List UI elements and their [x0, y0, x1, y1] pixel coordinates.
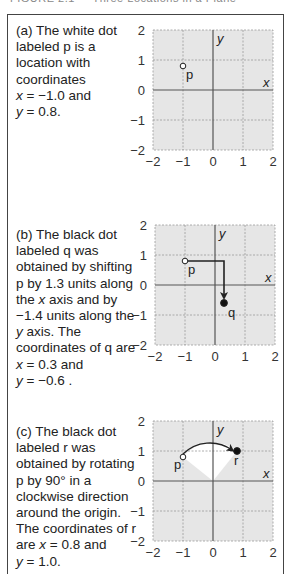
point-p — [180, 63, 186, 69]
plot-b: yx210−1−2−2−1012pq — [131, 217, 291, 367]
svg-text:p: p — [174, 457, 181, 472]
point-p — [182, 258, 188, 264]
svg-text:q: q — [228, 305, 235, 320]
svg-text:0: 0 — [138, 474, 145, 489]
caption-line: coordinates of q are — [16, 340, 146, 356]
caption-line: obtained by shifting — [16, 259, 146, 275]
svg-text:1: 1 — [138, 53, 145, 68]
caption-line: x = −1.0 and — [16, 88, 146, 104]
coordinate-plane: yx210−1−2−2−1012pr — [129, 413, 289, 563]
coordinate-plane: yx210−1−2−2−1012p — [129, 22, 289, 172]
svg-text:1: 1 — [140, 248, 147, 263]
svg-text:r: r — [234, 453, 239, 468]
plot-a: yx210−1−2−2−1012p — [129, 22, 289, 172]
svg-text:−2: −2 — [146, 154, 161, 169]
caption-line: The coordinates of r — [16, 521, 146, 537]
svg-text:−1: −1 — [130, 113, 145, 128]
caption-line: x = 0.3 and — [16, 357, 146, 373]
caption-line: are x = 0.8 and — [16, 537, 146, 553]
caption-b: (b) The black dot labeled q was obtained… — [16, 227, 146, 389]
caption-line: clockwise direction — [16, 489, 146, 505]
svg-text:2: 2 — [140, 218, 147, 233]
caption-line: location with — [16, 55, 146, 71]
caption-a: (a) The white dot labeled p is a locatio… — [16, 23, 146, 120]
plot-c: yx210−1−2−2−1012pr — [129, 413, 289, 563]
figure-title: Three Locations in a Plane — [93, 0, 237, 4]
caption-line: y axis. The — [16, 324, 146, 340]
caption-line: p by 90° in a — [16, 473, 146, 489]
figure-label: FIGURE 2.1 — [10, 0, 75, 4]
svg-text:−2: −2 — [130, 534, 145, 549]
caption-line: labeled p is a — [16, 39, 146, 55]
svg-text:0: 0 — [140, 278, 147, 293]
svg-text:−2: −2 — [146, 545, 161, 560]
caption-line: y = −0.6 . — [16, 373, 146, 389]
svg-text:−2: −2 — [130, 143, 145, 158]
svg-text:0: 0 — [138, 83, 145, 98]
svg-text:p: p — [188, 262, 195, 277]
caption-line: around the origin. — [16, 505, 146, 521]
point-q — [221, 300, 228, 307]
svg-text:1: 1 — [239, 154, 246, 169]
svg-text:2: 2 — [269, 545, 276, 560]
svg-text:1: 1 — [239, 545, 246, 560]
svg-text:0: 0 — [209, 154, 216, 169]
svg-text:0: 0 — [211, 349, 218, 364]
svg-text:x: x — [262, 75, 270, 90]
svg-text:−1: −1 — [132, 308, 147, 323]
svg-text:1: 1 — [138, 444, 145, 459]
caption-line: labeled q was — [16, 243, 146, 259]
svg-text:−1: −1 — [130, 504, 145, 519]
caption-line: −1.4 units along the — [16, 308, 146, 324]
svg-text:0: 0 — [209, 545, 216, 560]
caption-c: (c) The black dot labeled r was obtained… — [16, 424, 146, 570]
svg-text:−2: −2 — [132, 338, 147, 353]
caption-line: obtained by rotating — [16, 456, 146, 472]
svg-text:−1: −1 — [176, 154, 191, 169]
svg-text:1: 1 — [241, 349, 248, 364]
svg-text:−1: −1 — [176, 545, 191, 560]
figure-header: FIGURE 2.1 Three Locations in a Plane — [10, 0, 236, 4]
svg-text:x: x — [264, 270, 272, 285]
svg-text:2: 2 — [138, 414, 145, 429]
coordinate-plane: yx210−1−2−2−1012pq — [131, 217, 291, 367]
svg-text:p: p — [186, 67, 193, 82]
caption-line: labeled r was — [16, 440, 146, 456]
caption-line: the x axis and by — [16, 292, 146, 308]
svg-text:x: x — [262, 466, 270, 481]
caption-line: coordinates — [16, 72, 146, 88]
caption-line: (c) The black dot — [16, 424, 146, 440]
svg-text:−2: −2 — [148, 349, 163, 364]
svg-text:2: 2 — [269, 154, 276, 169]
caption-line: p by 1.3 units along — [16, 276, 146, 292]
caption-line: (a) The white dot — [16, 23, 146, 39]
caption-line: y = 0.8. — [16, 104, 146, 120]
caption-line: (b) The black dot — [16, 227, 146, 243]
caption-line: y = 1.0. — [16, 554, 146, 570]
svg-text:2: 2 — [271, 349, 278, 364]
svg-text:2: 2 — [138, 23, 145, 38]
svg-text:−1: −1 — [178, 349, 193, 364]
